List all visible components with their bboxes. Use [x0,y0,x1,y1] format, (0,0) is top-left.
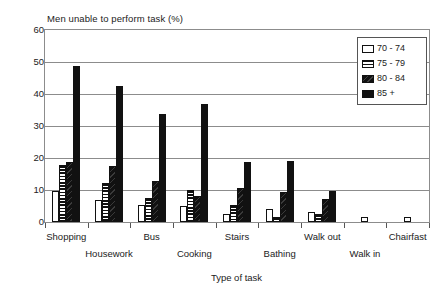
bar [244,162,251,222]
bar [201,104,208,222]
bar [230,205,237,222]
legend-label: 70 - 74 [377,44,405,53]
bar-group [301,30,344,222]
legend-swatch-icon [362,45,374,53]
bar [102,183,109,222]
legend-label: 85 + [377,89,395,98]
bar [116,86,123,222]
bar [66,162,73,222]
bar [315,214,322,222]
x-axis-title: Type of task [0,272,443,283]
x-tick-mark [130,223,131,228]
legend-swatch-icon [362,90,374,98]
y-tick-label: 0 [22,216,44,227]
legend-swatch-icon [362,60,374,68]
bar [95,200,102,222]
bar [404,217,411,222]
bar-chart: Men unable to perform task (%) 010203040… [0,0,443,296]
x-category-label: Walk in [350,248,381,259]
legend-swatch-icon [362,75,374,83]
bar [180,206,187,222]
bar [308,212,315,222]
bar-group [173,30,216,222]
bar-group [216,30,259,222]
y-tick-label: 10 [22,184,44,195]
legend-item-85-plus: 85 + [362,86,423,101]
x-category-label: Bus [143,231,159,242]
x-category-label: Walk out [304,231,341,242]
bar-group [258,30,301,222]
x-category-label: Stairs [225,231,249,242]
x-category-label: Bathing [264,248,296,259]
legend: 70 - 74 75 - 79 80 - 84 85 + [357,37,427,105]
legend-item-80-84: 80 - 84 [362,71,423,86]
bar [52,191,59,222]
x-tick-mark [173,223,174,228]
y-tick-label: 50 [22,56,44,67]
bar [138,205,145,222]
bar [329,191,336,222]
bar [187,190,194,222]
legend-item-75-79: 75 - 79 [362,56,423,71]
bar-group [88,30,131,222]
bar [287,161,294,222]
bar [273,217,280,222]
x-category-label: Shopping [46,231,86,242]
bar [152,181,159,222]
legend-label: 75 - 79 [377,59,405,68]
x-tick-mark [88,223,89,228]
x-tick-mark [216,223,217,228]
bar [361,217,368,222]
x-tick-mark [301,223,302,228]
bar [223,214,230,222]
x-tick-mark [386,223,387,228]
y-tick-label: 20 [22,152,44,163]
legend-item-70-74: 70 - 74 [362,41,423,56]
y-axis-ticks: 0102030405060 [16,29,44,223]
bar [266,209,273,222]
x-tick-mark [45,223,46,228]
x-tick-mark [344,223,345,228]
bar [73,66,80,222]
x-category-label: Housework [85,248,133,259]
bar [322,199,329,222]
y-tick-label: 30 [22,120,44,131]
x-tick-mark [258,223,259,228]
bar [109,166,116,222]
bar-group [130,30,173,222]
bar [159,114,166,222]
y-tick-label: 60 [22,24,44,35]
x-category-label: Chairfast [389,231,427,242]
x-category-label: Cooking [177,248,212,259]
bar-group [45,30,88,222]
legend-label: 80 - 84 [377,74,405,83]
bar [237,188,244,222]
x-tick-mark [429,223,430,228]
bar [59,165,66,222]
y-axis-title: Men unable to perform task (%) [47,13,183,24]
bar [145,198,152,222]
bar [280,192,287,222]
bar [194,196,201,222]
y-tick-label: 40 [22,88,44,99]
